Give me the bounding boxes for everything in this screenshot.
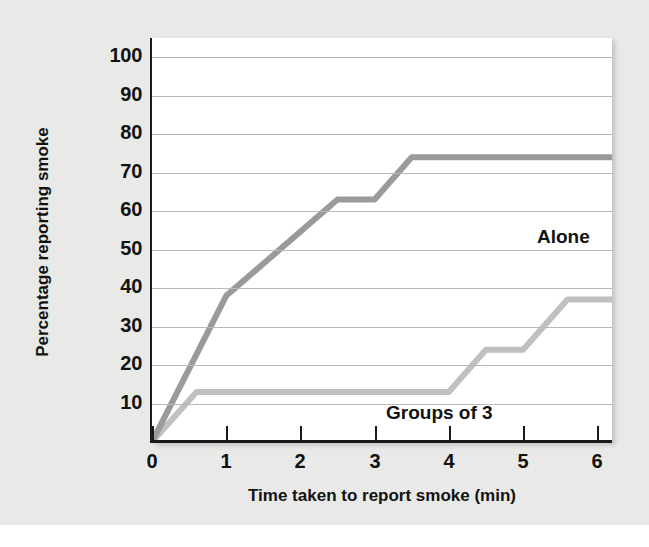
series-annotation-alone: Alone (537, 226, 590, 248)
gridline-100 (152, 57, 612, 58)
gridline-90 (152, 96, 612, 97)
gridline-70 (152, 173, 612, 174)
y-axis-line (150, 38, 152, 442)
y-tick-label-70: 70 (86, 160, 142, 183)
y-tick-label-40: 40 (86, 275, 142, 298)
x-tick-label-4: 4 (429, 450, 469, 473)
x-tick-label-1: 1 (206, 450, 246, 473)
gridline-50 (152, 250, 612, 251)
x-axis-title: Time taken to report smoke (min) (152, 486, 612, 506)
x-tick-0 (152, 426, 154, 442)
gridline-30 (152, 327, 612, 328)
chart-figure: Alone Groups of 3 102030405060708090100 … (0, 0, 649, 547)
x-axis-line (150, 440, 612, 443)
gridline-80 (152, 134, 612, 135)
series-annotation-groups-of-3: Groups of 3 (386, 402, 493, 424)
plot-area: Alone Groups of 3 (152, 38, 612, 442)
y-tick-label-10: 10 (86, 391, 142, 414)
x-tick-4 (449, 426, 451, 442)
x-tick-label-6: 6 (577, 450, 617, 473)
x-tick-2 (300, 426, 302, 442)
y-tick-label-80: 80 (86, 121, 142, 144)
x-tick-3 (375, 426, 377, 442)
x-tick-6 (597, 426, 599, 442)
x-tick-label-3: 3 (355, 450, 395, 473)
gridline-60 (152, 211, 612, 212)
y-tick-label-30: 30 (86, 314, 142, 337)
y-tick-label-20: 20 (86, 352, 142, 375)
gridline-40 (152, 288, 612, 289)
gridline-10 (152, 404, 612, 405)
y-tick-label-100: 100 (86, 44, 142, 67)
x-tick-label-2: 2 (280, 450, 320, 473)
gridline-20 (152, 365, 612, 366)
x-tick-1 (226, 426, 228, 442)
x-tick-label-0: 0 (132, 450, 172, 473)
x-tick-5 (523, 426, 525, 442)
y-tick-label-60: 60 (86, 198, 142, 221)
y-tick-label-90: 90 (86, 83, 142, 106)
y-tick-label-50: 50 (86, 237, 142, 260)
x-tick-label-5: 5 (503, 450, 543, 473)
y-axis-title: Percentage reporting smoke (33, 102, 53, 382)
